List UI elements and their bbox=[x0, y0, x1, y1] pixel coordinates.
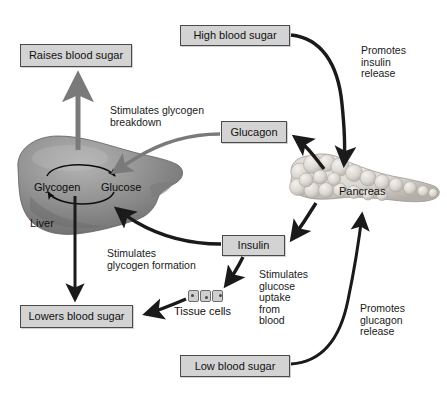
node-label: Low blood sugar bbox=[195, 361, 276, 372]
tissue-cell-icon bbox=[200, 290, 211, 302]
caption-stimulates-glycogen-breakdown: Stimulates glycogen breakdown bbox=[110, 105, 204, 128]
caption-promotes-glucagon-release: Promotes glucagon release bbox=[360, 303, 405, 338]
label-glycogen: Glycogen bbox=[34, 182, 80, 193]
node-insulin[interactable]: Insulin bbox=[222, 235, 285, 256]
node-high-blood-sugar[interactable]: High blood sugar bbox=[180, 25, 290, 46]
node-label: Lowers blood sugar bbox=[28, 311, 124, 322]
edge-high-sugar-to-pancreas bbox=[291, 35, 345, 164]
node-glucagon[interactable]: Glucagon bbox=[221, 121, 287, 143]
edge-pancreas-to-insulin bbox=[292, 203, 316, 239]
tissue-cell-icon bbox=[212, 290, 223, 302]
tissue-cells-icon bbox=[188, 290, 223, 302]
label-tissue-cells: Tissue cells bbox=[174, 306, 231, 317]
edge-insulin-to-tissue-cells bbox=[226, 257, 243, 285]
node-raises-blood-sugar[interactable]: Raises blood sugar bbox=[20, 44, 132, 67]
node-label: Raises blood sugar bbox=[29, 50, 123, 61]
diagram-canvas: High blood sugar Raises blood sugar Gluc… bbox=[0, 0, 447, 396]
node-label: High blood sugar bbox=[193, 30, 276, 41]
node-label: Glucagon bbox=[230, 127, 277, 138]
caption-promotes-insulin-release: Promotes insulin release bbox=[361, 45, 406, 80]
caption-stimulates-glucose-uptake: Stimulates glucose uptake from blood bbox=[259, 269, 308, 327]
label-liver: Liver bbox=[30, 218, 54, 229]
tissue-cell-icon bbox=[188, 290, 199, 302]
node-label: Insulin bbox=[238, 240, 270, 251]
node-lowers-blood-sugar[interactable]: Lowers blood sugar bbox=[20, 305, 133, 328]
node-low-blood-sugar[interactable]: Low blood sugar bbox=[180, 355, 290, 377]
label-pancreas: Pancreas bbox=[339, 186, 385, 197]
caption-stimulates-glycogen-formation: Stimulates glycogen formation bbox=[107, 248, 196, 271]
label-glucose: Glucose bbox=[101, 182, 141, 193]
